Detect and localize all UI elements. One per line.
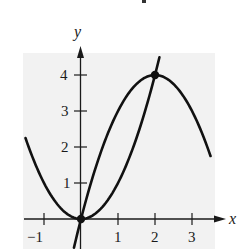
y-tick-label: 1 (63, 175, 71, 191)
cropped-text-fragment (142, 0, 146, 3)
y-tick-label: 4 (60, 67, 68, 83)
y-tick-label: 2 (61, 139, 69, 155)
y-axis-arrow-icon (77, 46, 84, 58)
x-tick-label: 1 (114, 229, 122, 245)
intersection-point (77, 215, 85, 223)
x-tick-label: 3 (188, 229, 196, 245)
y-tick-label: 3 (61, 103, 69, 119)
x-axis-label: x (228, 210, 236, 227)
intersection-point (151, 71, 159, 79)
x-tick-label: 2 (151, 229, 159, 245)
function-graph: x y −1 1 2 3 1 2 3 4 (0, 0, 241, 249)
x-axis-arrow-icon (214, 216, 226, 223)
x-tick-label: −1 (27, 229, 43, 245)
y-axis-label: y (72, 23, 82, 41)
